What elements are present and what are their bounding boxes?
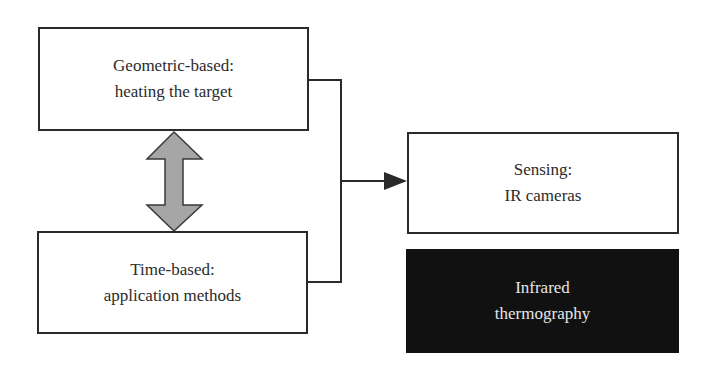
time-line2: application methods [104, 283, 241, 309]
infrared-thermography-box: Infrared thermography [406, 249, 679, 353]
connector-line-top [307, 80, 341, 282]
double-arrow-icon [147, 132, 202, 231]
time-based-box: Time-based: application methods [37, 231, 308, 334]
sensing-line2: IR cameras [505, 183, 582, 209]
sensing-line1: Sensing: [514, 157, 573, 183]
sensing-box: Sensing: IR cameras [407, 132, 679, 234]
arrowhead-right-icon [384, 172, 407, 190]
infrared-line2: thermography [495, 301, 590, 327]
geometric-line1: Geometric-based: [113, 53, 234, 79]
geometric-line2: heating the target [115, 79, 233, 105]
time-line1: Time-based: [130, 257, 214, 283]
geometric-based-box: Geometric-based: heating the target [38, 27, 309, 131]
infrared-line1: Infrared [515, 275, 570, 301]
